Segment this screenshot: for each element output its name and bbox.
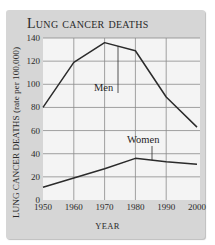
- y-axis-ticks: 020406080100120140: [27, 33, 41, 205]
- x-tick-label: 1960: [65, 202, 84, 212]
- y-tick-label: 120: [27, 56, 41, 66]
- line-chart: 020406080100120140 195019601970198019902…: [0, 0, 215, 245]
- y-tick-label: 20: [31, 172, 41, 182]
- y-tick-label: 140: [27, 33, 41, 43]
- x-tick-label: 1950: [34, 202, 53, 212]
- y-tick-label: 40: [31, 149, 41, 159]
- x-tick-label: 1970: [96, 202, 115, 212]
- x-tick-label: 1990: [157, 202, 176, 212]
- x-tick-label: 1980: [126, 202, 145, 212]
- y-tick-label: 60: [31, 126, 41, 136]
- series-label-women: Women: [127, 134, 160, 145]
- y-tick-label: 80: [31, 102, 41, 112]
- y-tick-label: 100: [27, 79, 41, 89]
- x-tick-label: 2000: [188, 202, 207, 212]
- plot-area: [43, 38, 200, 200]
- series-label-men: Men: [94, 82, 114, 93]
- x-axis-ticks: 195019601970198019902000: [34, 202, 207, 212]
